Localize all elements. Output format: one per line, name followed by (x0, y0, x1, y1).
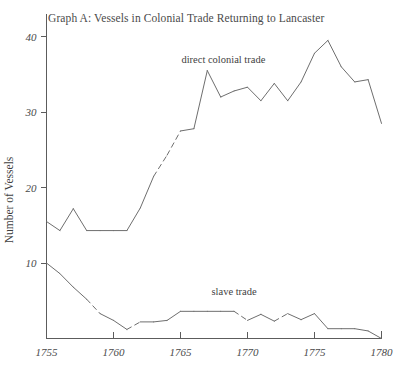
chart-container: Graph A: Vessels in Colonial Trade Retur… (0, 0, 400, 374)
x-tick-label: 1775 (304, 346, 327, 358)
y-tick-label: 40 (26, 31, 38, 43)
series-segment (100, 314, 113, 321)
series-segment (301, 53, 314, 82)
series-segment (261, 314, 274, 321)
series-segment (154, 155, 167, 176)
series-segment (234, 87, 247, 91)
series-segment (288, 314, 301, 320)
series-segment (154, 320, 167, 322)
series-segment (248, 314, 261, 320)
series-segment (181, 129, 194, 131)
series-segment (355, 329, 368, 331)
y-tick-label: 30 (25, 106, 38, 118)
x-tick-label: 1760 (103, 346, 126, 358)
series-segment (288, 82, 301, 101)
x-tick-label: 1765 (170, 346, 193, 358)
series-segment (47, 222, 60, 231)
series-segment (355, 80, 368, 82)
series-segment (207, 71, 220, 97)
series-segment (328, 40, 341, 66)
series-segment (87, 299, 100, 313)
y-tick-label: 20 (26, 182, 38, 194)
x-tick-label: 1780 (371, 346, 394, 358)
x-axis-ticks: 175517601765177017751780 (36, 332, 394, 358)
y-axis-title: Number of Vessels (3, 156, 15, 243)
series-label-slave-trade: slave trade (212, 286, 258, 297)
series-labels: direct colonial tradeslave trade (181, 54, 265, 297)
y-tick-label: 10 (26, 257, 38, 269)
series-segment (315, 40, 328, 53)
series-segment (261, 83, 274, 100)
series-segment (167, 311, 180, 320)
series-segment (368, 331, 381, 339)
series-segment (248, 87, 261, 101)
series-segment (140, 176, 153, 208)
series-segment (47, 263, 60, 274)
series-segment (234, 311, 247, 320)
series-label-direct-colonial-trade: direct colonial trade (181, 54, 265, 65)
series-segment (73, 287, 86, 299)
series-segment (127, 208, 140, 231)
series-segment (274, 83, 287, 100)
series-segment (341, 67, 354, 82)
series-segment (127, 322, 140, 330)
series-segment (301, 314, 314, 320)
series-segment (194, 71, 207, 129)
y-axis-ticks: 10203040 (25, 31, 47, 269)
x-tick-label: 1755 (36, 346, 59, 358)
line-chart: Graph A: Vessels in Colonial Trade Retur… (0, 0, 400, 374)
series-segment (315, 314, 328, 329)
series-segment (60, 209, 73, 231)
chart-title: Graph A: Vessels in Colonial Trade Retur… (48, 12, 324, 25)
series-segment (114, 320, 127, 329)
series-segment (73, 209, 86, 231)
series-segment (221, 91, 234, 97)
series-segment (274, 314, 287, 322)
series-segment (368, 80, 381, 124)
series-segment (167, 131, 180, 155)
series-segment (60, 274, 73, 288)
x-tick-label: 1770 (237, 346, 260, 358)
